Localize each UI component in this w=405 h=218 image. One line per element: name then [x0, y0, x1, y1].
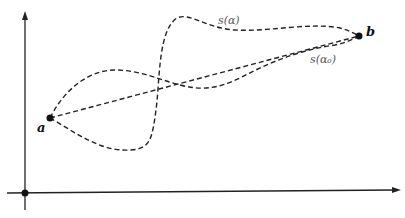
y-axis — [22, 11, 28, 210]
label-a: a — [37, 121, 45, 134]
point-a — [47, 115, 54, 122]
straight-path-s-alpha0 — [50, 36, 359, 118]
label-b: b — [366, 25, 375, 38]
x-axis-arrow-icon — [392, 187, 401, 193]
point-b — [356, 33, 363, 40]
s-curve-path — [50, 17, 359, 150]
label-s-alpha0: s(α₀) — [310, 54, 336, 65]
y-axis-arrow-icon — [22, 11, 28, 20]
origin-point — [22, 190, 29, 197]
label-s-alpha: s(α) — [218, 15, 240, 26]
diagram-canvas — [0, 0, 405, 218]
paths — [50, 17, 359, 150]
upper-path — [50, 36, 359, 118]
x-axis — [7, 187, 401, 193]
